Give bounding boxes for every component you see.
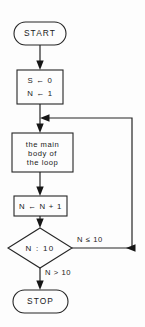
edge-start-to-init: [36, 45, 43, 70]
edge-increment-to-decision: [36, 216, 43, 228]
edge-label-exit: N > 10: [45, 268, 71, 277]
node-loop-body: the main body of the loop: [12, 133, 73, 172]
node-loop-body-line3: the loop: [27, 158, 58, 167]
node-increment: N ← N + 1: [14, 196, 67, 216]
node-decision: N : 10: [8, 228, 72, 268]
flowchart-canvas: START S ← 0 N ← 1 the main body of the l…: [0, 0, 145, 327]
node-stop: STOP: [13, 290, 68, 313]
node-start-label: START: [24, 28, 56, 38]
node-loop-body-line1: the main: [26, 140, 60, 149]
edge-merge-to-body: [36, 118, 43, 133]
edge-label-loop-back: N ≤ 10: [77, 235, 103, 244]
edge-body-to-increment: [36, 172, 43, 196]
node-loop-body-line2: body of: [28, 149, 57, 158]
node-decision-label: N : 10: [25, 244, 54, 253]
node-increment-label: N ← N + 1: [19, 202, 62, 211]
node-stop-label: STOP: [27, 296, 54, 306]
node-init-line2: N ← 1: [27, 89, 53, 98]
edge-decision-to-stop: [36, 268, 43, 290]
flowchart-diagram: START S ← 0 N ← 1 the main body of the l…: [0, 0, 145, 327]
node-start: START: [14, 22, 66, 45]
node-init-line1: S ← 0: [27, 76, 52, 85]
node-init: S ← 0 N ← 1: [17, 70, 63, 104]
